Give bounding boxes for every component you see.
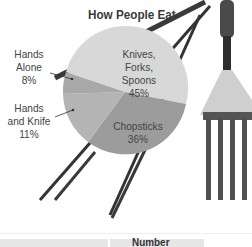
label-hands-and-knife: Hands and Knife 11% xyxy=(5,102,53,141)
fork-illustration xyxy=(200,0,252,200)
label-hands-alone: Hands Alone 8% xyxy=(9,48,49,87)
label-knives-forks-spoons: Knives, Forks, Spoons 45% xyxy=(108,48,170,100)
table-header-row xyxy=(0,239,204,247)
table-column-divider xyxy=(108,239,110,247)
divider xyxy=(0,233,252,234)
table-column-header-number: Number xyxy=(132,236,169,247)
label-chopsticks: Chopsticks 36% xyxy=(112,120,165,146)
